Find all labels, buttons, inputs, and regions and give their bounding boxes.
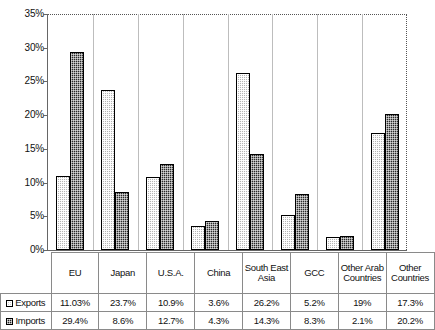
category-divider — [138, 14, 139, 250]
data-table: EUJapanU.S.A.ChinaSouth East AsiaGCCOthe… — [0, 252, 435, 330]
table-corner-cell — [1, 253, 52, 294]
bar-exports-other-arab-countries — [326, 237, 340, 250]
table-cell-value: 4.3% — [195, 312, 243, 330]
x-axis-line — [47, 250, 407, 251]
category-divider — [272, 14, 273, 250]
bar-imports-eu — [70, 52, 84, 250]
table-cell-value: 23.7% — [99, 294, 147, 312]
bar-group — [317, 14, 362, 250]
table-header-row: EUJapanU.S.A.ChinaSouth East AsiaGCCOthe… — [1, 253, 435, 294]
bars-area — [48, 14, 407, 250]
category-divider — [317, 14, 318, 250]
table-header-south-east-asia: South East Asia — [243, 253, 291, 294]
plot-region: 0%5%10%15%20%25%30%35% — [0, 0, 415, 254]
table-cell-value: 11.03% — [51, 294, 99, 312]
bar-exports-japan — [101, 90, 115, 250]
y-axis-tick-label: 15% — [0, 144, 44, 154]
category-divider — [362, 14, 363, 250]
bar-group — [93, 14, 138, 250]
bar-imports-other-countries — [385, 114, 399, 250]
legend-label-imports: Imports — [15, 315, 45, 326]
category-divider — [93, 14, 94, 250]
y-axis-tick-label: 10% — [0, 178, 44, 188]
bar-exports-other-countries — [371, 133, 385, 250]
table-cell-value: 8.6% — [99, 312, 147, 330]
legend-swatch-exports-icon — [6, 300, 13, 307]
table-header-japan: Japan — [99, 253, 147, 294]
y-axis-tick-mark — [43, 183, 47, 184]
table-header-other-arab-countries: Other Arab Countries — [338, 253, 386, 294]
y-axis-tick-label: 20% — [0, 110, 44, 120]
table-cell-value: 17.3% — [386, 294, 434, 312]
table-header-china: China — [195, 253, 243, 294]
legend-swatch-imports-icon — [6, 318, 13, 325]
y-axis-tick-mark — [43, 149, 47, 150]
table-cell-value: 5.2% — [290, 294, 338, 312]
bar-exports-u-s-a — [146, 177, 160, 250]
y-axis-tick-label: 30% — [0, 43, 44, 53]
bar-group — [48, 14, 93, 250]
y-axis-tick-label: 35% — [0, 9, 44, 19]
table-cell-value: 20.2% — [386, 312, 434, 330]
y-axis-tick-mark — [43, 14, 47, 15]
bar-imports-gcc — [295, 194, 309, 250]
table-cell-value: 2.1% — [338, 312, 386, 330]
legend-label-exports: Exports — [15, 297, 45, 308]
legend-item-exports: Exports — [1, 294, 52, 312]
bar-imports-china — [205, 221, 219, 250]
bar-imports-japan — [115, 192, 129, 250]
table-header-gcc: GCC — [290, 253, 338, 294]
table-cell-value: 3.6% — [195, 294, 243, 312]
bar-group — [362, 14, 407, 250]
bar-group — [138, 14, 183, 250]
y-axis-tick-mark — [43, 81, 47, 82]
table-cell-value: 29.4% — [51, 312, 99, 330]
table-cell-value: 12.7% — [147, 312, 195, 330]
y-axis-tick-label: 5% — [0, 211, 44, 221]
table-header-eu: EU — [51, 253, 99, 294]
table-row-imports: Imports 29.4%8.6%12.7%4.3%14.3%8.3%2.1%2… — [1, 312, 435, 330]
table-header-other-countries: Other Countries — [386, 253, 434, 294]
bar-imports-other-arab-countries — [340, 236, 354, 250]
y-axis-tick-mark — [43, 250, 47, 251]
bar-group — [228, 14, 273, 250]
table-cell-value: 19% — [338, 294, 386, 312]
bar-exports-gcc — [281, 215, 295, 250]
y-axis-tick-label: 25% — [0, 76, 44, 86]
y-axis-tick-mark — [43, 216, 47, 217]
bar-group — [272, 14, 317, 250]
legend-item-imports: Imports — [1, 312, 52, 330]
table-header-u-s-a: U.S.A. — [147, 253, 195, 294]
bar-exports-china — [191, 226, 205, 250]
table-cell-value: 10.9% — [147, 294, 195, 312]
category-divider — [183, 14, 184, 250]
bar-exports-eu — [56, 176, 70, 250]
category-divider — [228, 14, 229, 250]
y-axis-tick-mark — [43, 48, 47, 49]
table-cell-value: 14.3% — [243, 312, 291, 330]
bar-exports-south-east-asia — [236, 73, 250, 250]
y-axis-tick-mark — [43, 115, 47, 116]
table-cell-value: 26.2% — [243, 294, 291, 312]
table-row-exports: Exports 11.03%23.7%10.9%3.6%26.2%5.2%19%… — [1, 294, 435, 312]
bar-imports-u-s-a — [160, 164, 174, 250]
bar-group — [183, 14, 228, 250]
bar-imports-south-east-asia — [250, 154, 264, 250]
table-cell-value: 8.3% — [290, 312, 338, 330]
